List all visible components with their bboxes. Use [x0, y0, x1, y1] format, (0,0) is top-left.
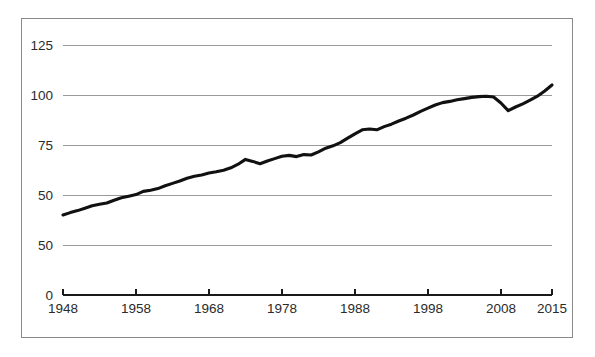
line-chart-figure: 0505075100125 19481958196819781988199820…	[0, 0, 595, 357]
x-tick-label: 1948	[48, 301, 78, 316]
y-tick-label: 50	[38, 238, 53, 253]
x-tick-label: 2008	[486, 301, 516, 316]
y-tick-label: 75	[38, 138, 53, 153]
x-tick-label: 1968	[194, 301, 224, 316]
chart-plot-area: 0505075100125 19481958196819781988199820…	[0, 0, 595, 357]
x-tick-marks	[63, 289, 552, 295]
y-tick-labels: 0505075100125	[30, 38, 53, 303]
x-tick-labels: 19481958196819781988199820082015	[48, 301, 567, 316]
x-tick-label: 1988	[340, 301, 370, 316]
x-tick-label: 1998	[413, 301, 443, 316]
x-tick-label: 2015	[537, 301, 567, 316]
x-tick-label: 1958	[121, 301, 151, 316]
gridlines	[63, 45, 552, 245]
y-tick-label: 100	[30, 88, 53, 103]
y-tick-label: 50	[38, 188, 53, 203]
y-tick-label: 125	[30, 38, 53, 53]
x-tick-label: 1978	[267, 301, 297, 316]
